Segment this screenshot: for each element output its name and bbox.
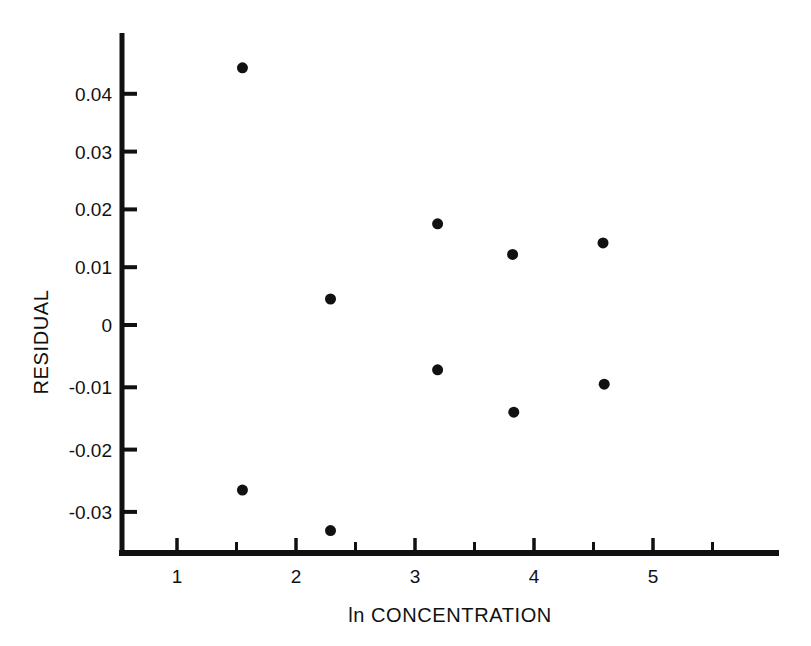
x-tick-label-group: 12345 (172, 566, 659, 587)
data-point-group (237, 62, 610, 536)
y-tick-label: -0.01 (69, 377, 112, 398)
x-tick-label: 4 (529, 566, 540, 587)
x-tick-label: 3 (410, 566, 421, 587)
data-point (325, 525, 336, 536)
y-tick-label: 0.04 (75, 84, 112, 105)
data-point (325, 293, 336, 304)
data-point (237, 62, 248, 73)
y-tick-label: 0.01 (75, 257, 112, 278)
data-point (508, 407, 519, 418)
residual-scatter-figure: 0.040.030.020.010-0.01-0.02-0.03 12345 l… (0, 0, 811, 646)
y-axis-title: RESIDUAL (30, 290, 52, 395)
x-tick-label: 1 (172, 566, 183, 587)
y-tick-label: -0.03 (69, 502, 112, 523)
y-tick-label: 0.03 (75, 142, 112, 163)
data-point (237, 485, 248, 496)
x-tick-label: 5 (648, 566, 659, 587)
plot-canvas: 0.040.030.020.010-0.01-0.02-0.03 12345 l… (0, 0, 811, 646)
y-tick-label: 0 (101, 315, 112, 336)
data-point (598, 237, 609, 248)
data-point (432, 218, 443, 229)
y-tick-label-group: 0.040.030.020.010-0.01-0.02-0.03 (69, 84, 113, 523)
data-point (507, 249, 518, 260)
data-point (599, 379, 610, 390)
y-tick-label: -0.02 (69, 440, 112, 461)
y-tick-label: 0.02 (75, 199, 112, 220)
data-point (432, 364, 443, 375)
x-tick-label: 2 (291, 566, 302, 587)
x-axis-title: ln CONCENTRATION (348, 604, 552, 626)
